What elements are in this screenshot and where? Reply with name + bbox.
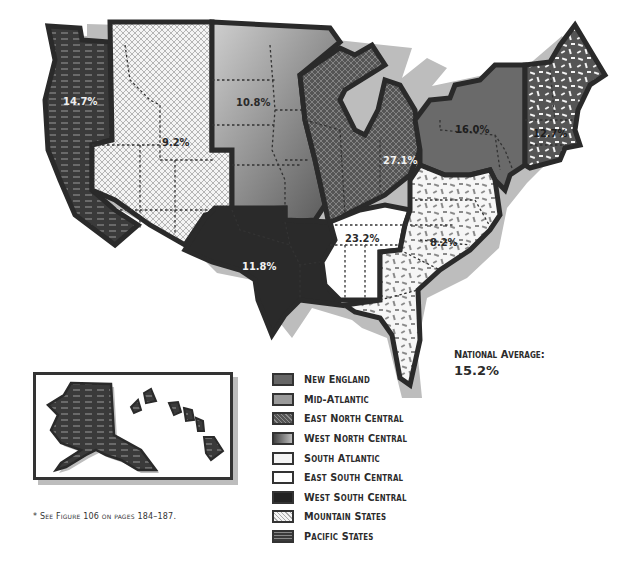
label-west-south-central: 11.8%	[242, 260, 276, 273]
alaska-shape[interactable]	[48, 383, 156, 470]
legend-label: Pacific States	[304, 530, 374, 543]
legend-item-east-south-central: East South Central	[272, 468, 421, 488]
pacific-states-swatch	[272, 530, 294, 543]
label-pacific: 14.7%	[63, 95, 97, 108]
east-north-central-swatch	[272, 412, 294, 425]
legend-item-mid-atlantic: Mid-Atlantic	[272, 390, 421, 410]
legend-item-west-north-central: West North Central	[272, 429, 421, 449]
label-south-atlantic: 8.2%	[430, 236, 458, 249]
legend-label: New England	[304, 373, 370, 386]
label-new-england: 12.7%	[533, 127, 567, 140]
legend-label: East South Central	[304, 471, 403, 484]
label-mountain: 9.2%	[162, 136, 190, 149]
national-average-value: 15.2%	[454, 363, 555, 378]
label-mid-atlantic: 16.0%	[455, 123, 489, 136]
inset-map	[36, 375, 230, 477]
legend-label: Mid-Atlantic	[304, 393, 369, 406]
hawaii-shapes[interactable]	[131, 389, 223, 460]
mid-atlantic-swatch	[272, 393, 294, 406]
legend-label: West North Central	[304, 432, 407, 445]
new-england-swatch	[272, 373, 294, 386]
legend-item-new-england: New England	[272, 370, 421, 390]
legend-label: West South Central	[304, 491, 407, 504]
alaska-hawaii-inset	[33, 372, 233, 480]
east-south-central-swatch	[272, 471, 294, 484]
national-average-label: National Average:	[454, 348, 545, 361]
legend-item-south-atlantic: South Atlantic	[272, 448, 421, 468]
legend-item-east-north-central: East North Central	[272, 409, 421, 429]
mountain-states-swatch	[272, 510, 294, 523]
legend-label: East North Central	[304, 412, 404, 425]
west-south-central-swatch	[272, 491, 294, 504]
label-east-north-central: 27.1%	[383, 154, 417, 167]
legend: New England Mid-Atlantic East North Cent…	[272, 370, 421, 546]
region-new-england[interactable]	[525, 25, 605, 168]
legend-item-west-south-central: West South Central	[272, 488, 421, 508]
legend-label: South Atlantic	[304, 452, 380, 465]
legend-item-mountain-states: Mountain States	[272, 507, 421, 527]
legend-item-pacific-states: Pacific States	[272, 527, 421, 547]
west-north-central-swatch	[272, 432, 294, 445]
footnote: * See Figure 106 on pages 184–187.	[33, 512, 176, 521]
legend-label: Mountain States	[304, 510, 386, 523]
south-atlantic-swatch	[272, 452, 294, 465]
label-east-south-central: 23.2%	[345, 232, 379, 245]
label-west-north-central: 10.8%	[236, 96, 270, 109]
national-average: National Average: 15.2%	[454, 348, 555, 378]
